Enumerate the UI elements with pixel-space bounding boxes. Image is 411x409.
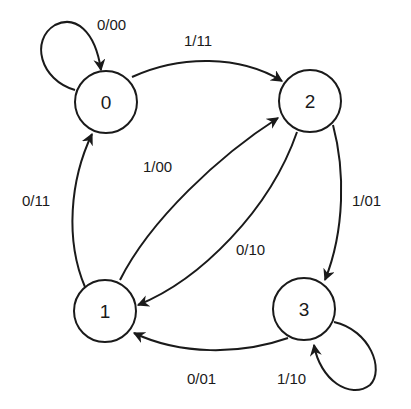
state-1: 1 xyxy=(74,280,136,342)
label-1-to-0: 0/11 xyxy=(22,192,50,209)
label-1-to-2: 1/00 xyxy=(143,158,172,175)
svg-text:2: 2 xyxy=(305,91,316,112)
label-0-to-0: 0/00 xyxy=(97,16,126,33)
label-0-to-2: 1/11 xyxy=(184,32,212,49)
state-3: 3 xyxy=(273,278,335,340)
label-3-to-3: 1/10 xyxy=(277,370,306,387)
label-2-to-1: 0/10 xyxy=(236,241,265,258)
edge-1-to-0 xyxy=(72,134,92,287)
svg-text:0: 0 xyxy=(101,92,112,113)
label-2-to-3: 1/01 xyxy=(352,192,381,209)
svg-text:1: 1 xyxy=(100,301,111,322)
edge-0-to-2 xyxy=(132,61,282,81)
label-3-to-1: 0/01 xyxy=(187,370,216,387)
edge-2-to-3 xyxy=(325,125,341,280)
edge-3-to-1 xyxy=(134,333,288,350)
svg-text:3: 3 xyxy=(299,299,310,320)
state-diagram: 0 2 1 3 0/00 1/11 0/11 1/00 0/10 1/01 0/… xyxy=(0,0,411,409)
state-0: 0 xyxy=(75,71,137,133)
state-2: 2 xyxy=(279,70,341,132)
